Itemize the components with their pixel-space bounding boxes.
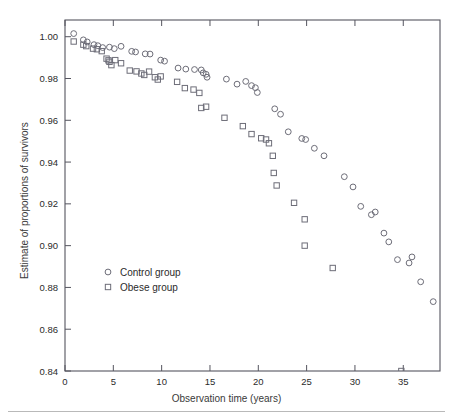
data-point-circle (430, 299, 436, 305)
series-obese-group (71, 39, 404, 374)
data-point-circle (224, 76, 230, 82)
x-tick-label: 25 (301, 376, 312, 387)
y-tick-label: 0.92 (40, 198, 59, 209)
data-point-circle (350, 184, 356, 190)
y-tick-label: 0.90 (40, 240, 59, 251)
data-point-square (191, 87, 196, 92)
data-point-circle (162, 58, 168, 64)
data-point-circle (358, 203, 364, 209)
data-point-circle (192, 67, 198, 73)
data-point-square (249, 131, 254, 136)
y-tick-label: 0.84 (40, 366, 59, 377)
data-point-square (71, 39, 76, 44)
x-tick-label: 20 (253, 376, 264, 387)
y-tick-label: 0.86 (40, 324, 59, 335)
data-point-circle (158, 57, 164, 63)
data-point-circle (71, 31, 77, 37)
data-point-square (302, 243, 307, 248)
data-point-circle (299, 136, 305, 142)
plot-frame (65, 20, 440, 371)
data-point-square (174, 79, 179, 84)
data-point-square (240, 123, 245, 128)
data-point-square (271, 170, 276, 175)
x-tick-label: 35 (398, 376, 409, 387)
legend-label: Control group (120, 267, 181, 278)
data-point-circle (234, 81, 240, 87)
y-tick-label: 0.98 (40, 73, 59, 84)
x-tick-label: 5 (111, 376, 116, 387)
data-point-square (291, 200, 296, 205)
data-points-layer (71, 31, 436, 374)
data-point-circle (175, 65, 181, 71)
data-point-circle (285, 129, 291, 135)
data-point-circle (395, 257, 401, 263)
legend-marker-circle (105, 269, 111, 275)
legend-label: Obese group (120, 282, 178, 293)
x-tick-label: 0 (62, 376, 67, 387)
clipped-header-text (0, 0, 453, 6)
data-point-square (270, 153, 275, 158)
data-point-circle (272, 106, 278, 112)
series-control-group (71, 31, 436, 305)
data-point-circle (381, 230, 387, 236)
data-point-circle (278, 111, 284, 117)
survival-scatter-figure: 0.840.860.880.900.920.940.960.981.000510… (0, 0, 453, 417)
data-point-circle (409, 254, 415, 260)
data-point-circle (118, 43, 124, 49)
data-point-square (182, 85, 187, 90)
data-point-circle (341, 174, 347, 180)
y-axis-label: Estimate of proportions of survivors (19, 91, 30, 311)
data-point-square (274, 183, 279, 188)
data-point-circle (183, 66, 189, 72)
data-point-square (330, 265, 335, 270)
data-point-circle (303, 137, 309, 143)
data-point-circle (406, 260, 412, 266)
x-tick-label: 30 (350, 376, 361, 387)
data-point-square (127, 68, 132, 73)
x-tick-label: 10 (156, 376, 167, 387)
legend: Control groupObese group (105, 267, 181, 293)
data-point-circle (418, 279, 424, 285)
y-tick-label: 0.94 (40, 157, 59, 168)
data-point-square (197, 90, 202, 95)
footer-divider (8, 411, 445, 412)
data-point-circle (321, 153, 327, 159)
y-tick-label: 0.96 (40, 115, 59, 126)
y-tick-label: 1.00 (40, 31, 59, 42)
data-point-circle (311, 145, 317, 151)
x-tick-label: 15 (205, 376, 216, 387)
plot-canvas: 0.840.860.880.900.920.940.960.981.000510… (0, 0, 453, 417)
y-tick-label: 0.88 (40, 282, 59, 293)
data-point-square (118, 61, 123, 66)
x-axis-label: Observation time (years) (0, 393, 453, 404)
data-point-circle (243, 79, 249, 85)
data-point-circle (386, 239, 392, 245)
data-point-square (302, 217, 307, 222)
data-point-circle (133, 49, 139, 55)
data-point-square (222, 115, 227, 120)
legend-marker-square (105, 284, 110, 289)
